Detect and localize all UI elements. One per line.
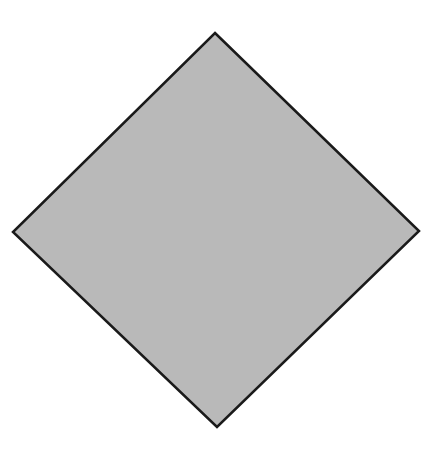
diamond-shape: [13, 33, 419, 427]
diagram-canvas: [0, 0, 447, 459]
